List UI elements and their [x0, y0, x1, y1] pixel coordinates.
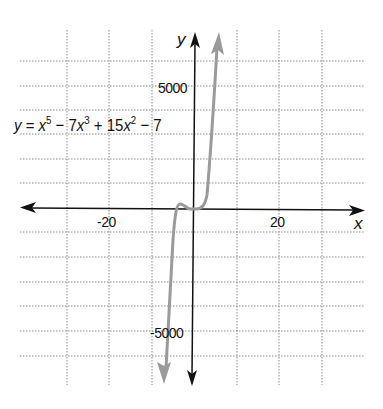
- x-tick-neg20: -20: [97, 214, 116, 230]
- y-axis-label: y: [177, 30, 186, 50]
- y-tick-5000: 5000: [158, 80, 187, 96]
- y-tick-neg5000: -5000: [150, 325, 183, 341]
- equation-label: y = x5 − 7x3 + 15x2 − 7: [14, 114, 162, 136]
- curve-down-arrow: [157, 362, 171, 384]
- x-tick-20: 20: [270, 214, 285, 230]
- graph-canvas: [0, 0, 383, 409]
- x-axis-label: x: [354, 214, 363, 234]
- curve: [166, 48, 217, 368]
